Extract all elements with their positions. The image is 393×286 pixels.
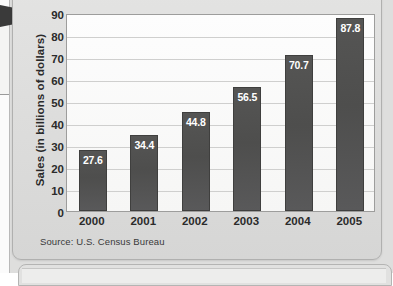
bar-value-label: 87.8 [337, 22, 363, 34]
bar: 87.8 [336, 18, 364, 211]
bar-value-label: 70.7 [286, 59, 312, 71]
bar-value-label: 44.8 [183, 116, 209, 128]
y-tick-label: 20 [38, 163, 64, 175]
bar: 34.4 [130, 135, 158, 211]
x-tick-label: 2004 [269, 215, 327, 227]
next-figure-panel-inner [22, 268, 386, 283]
y-tick-label: 50 [38, 97, 64, 109]
plot-area: 27.634.444.856.570.787.8 [66, 14, 375, 212]
y-tick-label: 10 [38, 185, 64, 197]
x-tick-label: 2005 [320, 215, 378, 227]
y-tick-label: 40 [38, 119, 64, 131]
y-tick-label: 80 [38, 31, 64, 43]
y-tick-label: 0 [38, 207, 64, 219]
x-tick-label: 2000 [63, 215, 121, 227]
bar-chart: Sales (in billions of dollars) 010203040… [12, 0, 380, 258]
bar: 70.7 [285, 55, 313, 211]
bar-value-label: 56.5 [234, 91, 260, 103]
x-tick-label: 2003 [217, 215, 275, 227]
page-left-margin-strip [0, 0, 10, 273]
y-tick-label: 60 [38, 75, 64, 87]
y-tick-label: 30 [38, 141, 64, 153]
y-axis-tick-labels: 0102030405060708090 [38, 14, 64, 212]
x-axis-tick-labels: 200020012002200320042005 [66, 215, 375, 233]
x-tick-label: 2002 [166, 215, 224, 227]
y-tick-label: 70 [38, 53, 64, 65]
bar: 56.5 [233, 87, 261, 211]
bar-value-label: 27.6 [80, 154, 106, 166]
x-tick-label: 2001 [114, 215, 172, 227]
bar-value-label: 34.4 [131, 139, 157, 151]
source-note: Source: U.S. Census Bureau [40, 236, 165, 247]
bar: 27.6 [79, 150, 107, 211]
bar-series: 27.634.444.856.570.787.8 [67, 15, 374, 211]
bar: 44.8 [182, 112, 210, 211]
y-tick-label: 90 [38, 9, 64, 21]
